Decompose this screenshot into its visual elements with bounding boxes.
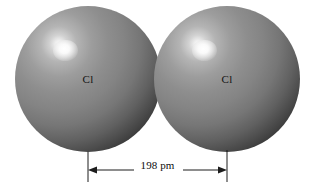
chlorine-atom-left: Cl — [15, 6, 161, 152]
atom-label-left: Cl — [15, 74, 161, 85]
bond-length-label: 198 pm — [0, 160, 315, 171]
chlorine-molecule-figure: Cl Cl 198 pm — [0, 0, 315, 189]
chlorine-atom-right: Cl — [154, 6, 300, 152]
atom-label-right: Cl — [154, 74, 300, 85]
